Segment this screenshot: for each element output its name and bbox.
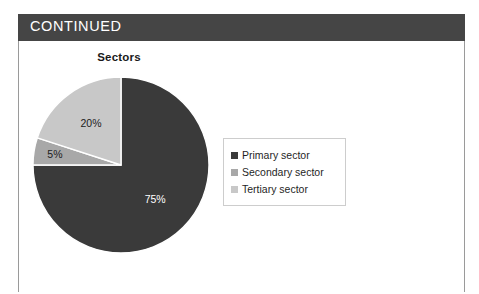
page-root: CONTINUED Sectors 75%5%20% Primary secto… bbox=[0, 0, 479, 294]
legend-swatch-secondary-sector bbox=[231, 169, 238, 176]
pie-svg: 75%5%20% bbox=[32, 76, 210, 254]
legend-label: Primary sector bbox=[242, 150, 310, 161]
chart-title: Sectors bbox=[19, 51, 219, 63]
pie-graphic: 75%5%20% bbox=[32, 76, 210, 254]
legend-label: Secondary sector bbox=[242, 167, 324, 178]
pie-chart: Sectors 75%5%20% Primary sector Secondar… bbox=[19, 41, 464, 291]
pie-slice-group bbox=[33, 77, 209, 253]
legend-item[interactable]: Tertiary sector bbox=[231, 181, 337, 197]
pie-slice-label: 20% bbox=[80, 117, 101, 129]
pie-slice-label: 5% bbox=[47, 148, 62, 160]
chart-legend: Primary sector Secondary sector Tertiary… bbox=[223, 138, 346, 206]
legend-item[interactable]: Secondary sector bbox=[231, 164, 337, 180]
legend-swatch-primary-sector bbox=[231, 152, 238, 159]
pie-slice-label: 75% bbox=[145, 193, 166, 205]
continued-banner: CONTINUED bbox=[18, 14, 465, 41]
legend-item[interactable]: Primary sector bbox=[231, 147, 337, 163]
continued-label: CONTINUED bbox=[30, 18, 122, 34]
legend-label: Tertiary sector bbox=[242, 184, 308, 195]
legend-swatch-tertiary-sector bbox=[231, 186, 238, 193]
